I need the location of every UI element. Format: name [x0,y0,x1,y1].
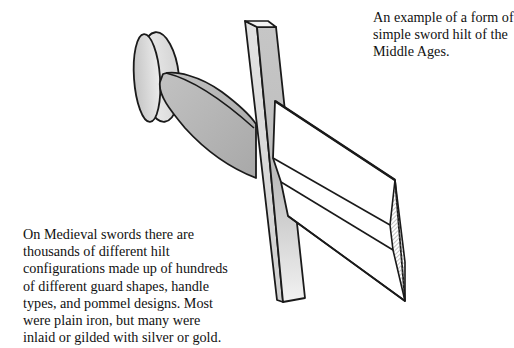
caption-bottom: On Medieval swords there are thousands o… [23,226,228,346]
caption-top: An example of a form of simple sword hil… [373,9,514,61]
grip [160,73,256,178]
